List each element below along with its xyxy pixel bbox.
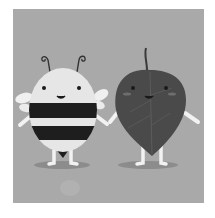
bee-antenna-right [77, 56, 85, 72]
leaf-eye-right [164, 86, 168, 90]
leaf-eye-left [131, 86, 135, 90]
leaf-stem [145, 48, 147, 70]
bee-shadow [34, 161, 90, 169]
leaf-character [110, 48, 198, 164]
bee-stripe-top [25, 103, 105, 118]
bee-antenna-left [42, 57, 50, 72]
leaf-mouth [145, 96, 153, 98]
leaf-cheek-left [123, 93, 131, 96]
bee-character [14, 56, 110, 164]
light-spot [60, 180, 80, 196]
bee-eye-left [42, 86, 46, 90]
bee-mouth [57, 96, 65, 98]
bee-stripe-bottom [25, 126, 105, 140]
leaf-leg-right [161, 145, 166, 164]
leaf-arm-left [110, 112, 118, 122]
leaf-shadow [118, 161, 178, 169]
bee-arm-right [95, 115, 107, 124]
leaf-arm-right [185, 113, 198, 122]
leaf-cheek-right [168, 93, 176, 96]
bee-eye-right [77, 86, 81, 90]
bee-and-leaf-illustration [0, 0, 215, 218]
